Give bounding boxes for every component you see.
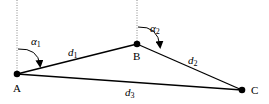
point-a-dot (14, 71, 21, 78)
point-b-label: B (133, 50, 140, 62)
point-a-label: A (13, 82, 21, 94)
point-c-label: C (251, 84, 258, 96)
point-c-dot (239, 87, 246, 94)
angle-arc-alpha1 (18, 49, 40, 65)
segment-label-d3: d3 (125, 86, 135, 100)
angle-label-alpha1: α1 (31, 35, 41, 49)
angle-label-alpha2: α2 (150, 22, 160, 36)
segment-label-d1: d1 (68, 46, 78, 60)
segment-label-d2: d2 (188, 54, 198, 68)
point-b-dot (134, 41, 141, 48)
triangle-diagram: A B C d1 d2 d3 α1 α2 (0, 0, 269, 104)
